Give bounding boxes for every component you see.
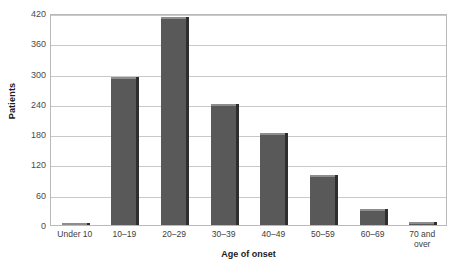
y-tick-label: 240 [14,100,46,109]
x-tick-label: 50–59 [295,229,351,239]
bar[interactable] [111,77,139,225]
bar-highlight [111,77,136,79]
bar[interactable] [211,104,239,225]
y-tick-label: 120 [14,161,46,170]
y-tick-label: 360 [14,40,46,49]
x-tick-label: 40–49 [245,229,301,239]
x-tick-label: 60–69 [345,229,401,239]
bar-slot [299,15,349,225]
bar-chart: Patients 060120180240300360420 Under 101… [0,0,453,263]
bar-slot [101,15,151,225]
bar-highlight [211,104,236,106]
bar[interactable] [62,223,90,225]
x-tick-label: 10–19 [96,229,152,239]
bar-highlight [62,223,87,225]
bar-highlight [260,133,285,135]
x-axis-title: Age of onset [50,249,447,259]
bar[interactable] [260,133,288,225]
bar-slot [250,15,300,225]
bar[interactable] [310,175,338,225]
bar-slot [200,15,250,225]
bar[interactable] [409,222,437,225]
bars-layer [51,15,446,225]
y-tick-label: 180 [14,131,46,140]
y-tick-label: 0 [14,222,46,231]
x-tick-label: 70 and over [394,229,450,249]
bar-slot [398,15,448,225]
bar[interactable] [360,209,388,225]
bar-highlight [409,222,434,224]
x-tick-label: 20–29 [146,229,202,239]
bar-slot [51,15,101,225]
y-axis-tick-labels: 060120180240300360420 [14,0,46,263]
y-tick-label: 300 [14,70,46,79]
plot-area [50,14,447,226]
bar-highlight [360,209,385,211]
bar[interactable] [161,17,189,225]
x-tick-label: 30–39 [196,229,252,239]
bar-slot [349,15,399,225]
bar-highlight [310,175,335,177]
bar-slot [150,15,200,225]
y-tick-label: 60 [14,191,46,200]
x-tick-label: Under 10 [47,229,103,239]
y-tick-label: 420 [14,10,46,19]
bar-highlight [161,17,186,19]
